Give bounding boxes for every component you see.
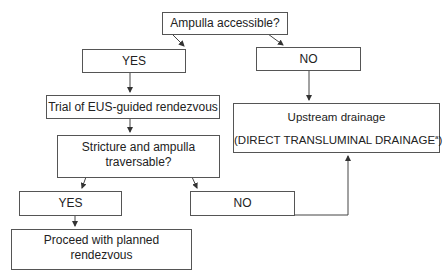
node-label-line1: Stricture and ampulla — [58, 140, 219, 155]
node-no-stricture: NO — [190, 191, 295, 216]
arrow-ampulla-to-no — [268, 34, 283, 45]
node-ampulla-accessible: Ampulla accessible? — [162, 12, 288, 35]
node-label: Proceed with planned rendezvous — [44, 233, 159, 262]
arrow-stricture-to-no — [192, 177, 197, 188]
node-label: NO — [234, 196, 252, 211]
node-title: Upstream drainage — [234, 110, 439, 125]
node-subtitle: (DIRECT TRANSLUMINAL DRAINAGEa) — [234, 133, 439, 148]
node-label-line2: traversable? — [58, 155, 219, 170]
node-yes-stricture: YES — [19, 191, 122, 216]
node-label: YES — [58, 196, 82, 211]
subtitle-text: (DIRECT TRANSLUMINAL DRAINAGE — [234, 134, 435, 146]
node-yes-ampulla: YES — [82, 49, 186, 73]
node-label: YES — [122, 54, 146, 69]
node-label: NO — [300, 52, 318, 67]
node-upstream-drainage: Upstream drainage (DIRECT TRANSLUMINAL D… — [233, 103, 440, 153]
node-proceed-rendezvous: Proceed with planned rendezvous — [11, 229, 192, 270]
node-stricture-traversable: Stricture and ampulla traversable? — [57, 135, 220, 178]
node-trial-eus-rendezvous: Trial of EUS-guided rendezvous — [46, 95, 220, 119]
node-label: Trial of EUS-guided rendezvous — [48, 100, 218, 115]
subtitle-close: ) — [438, 134, 442, 146]
node-label: Ampulla accessible? — [170, 16, 279, 31]
arrow-no-to-upstream-2 — [295, 156, 348, 215]
arrow-stricture-to-yes — [82, 177, 86, 188]
arrow-ampulla-to-yes — [172, 34, 184, 46]
node-no-ampulla: NO — [256, 47, 361, 71]
